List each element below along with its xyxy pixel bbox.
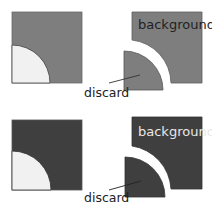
background-label-top: background — [138, 17, 212, 32]
source-square-bottom — [12, 120, 82, 190]
background-label-bottom: background — [138, 124, 212, 139]
source-square-top — [12, 12, 82, 83]
discard-label-bottom: discard — [84, 190, 129, 204]
discard-shape-top — [124, 51, 163, 90]
top-row: background discard — [12, 12, 212, 100]
discard-shape-bottom — [125, 157, 165, 197]
diagram-canvas: background discard background discard — [0, 0, 212, 204]
bottom-row: background discard — [12, 117, 212, 204]
discard-label-top: discard — [84, 85, 129, 100]
